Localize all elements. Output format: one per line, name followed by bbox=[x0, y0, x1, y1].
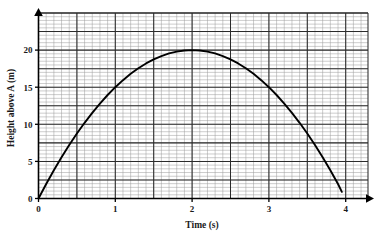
y-tick-label: 0 bbox=[28, 194, 33, 204]
y-tick-label: 10 bbox=[24, 120, 34, 130]
chart-container: 01234 05101520 Time (s) Height above A (… bbox=[0, 0, 381, 239]
y-tick-label: 15 bbox=[24, 83, 34, 93]
x-tick-label: 1 bbox=[113, 204, 118, 214]
y-axis-title: Height above A (m) bbox=[6, 69, 17, 147]
height-vs-time-graph: 01234 05101520 Time (s) Height above A (… bbox=[0, 0, 381, 239]
y-tick-label: 5 bbox=[28, 157, 33, 167]
x-tick-label: 4 bbox=[343, 204, 348, 214]
x-tick-label: 0 bbox=[36, 204, 41, 214]
y-tick-label: 20 bbox=[24, 45, 34, 55]
x-tick-label: 3 bbox=[267, 204, 272, 214]
x-tick-label: 2 bbox=[190, 204, 195, 214]
x-axis-title: Time (s) bbox=[185, 220, 218, 231]
